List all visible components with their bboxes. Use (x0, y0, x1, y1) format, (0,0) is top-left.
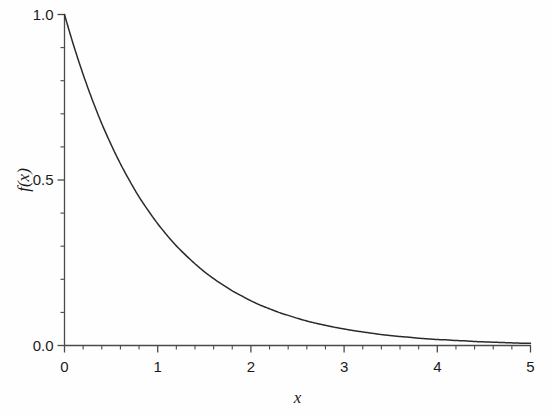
x-tick-label-2: 2 (231, 358, 271, 375)
y-tick-label-0-5: 0.5 (33, 171, 54, 188)
y-axis-major-ticks (58, 15, 65, 346)
y-tick-label-1-0: 1.0 (33, 6, 54, 23)
x-tick-label-3: 3 (324, 358, 364, 375)
y-axis-title: f(x) (14, 160, 34, 200)
x-tick-label-0: 0 (45, 358, 85, 375)
x-tick-label-5: 5 (511, 358, 551, 375)
x-tick-label-1: 1 (138, 358, 178, 375)
axis-lines (65, 15, 532, 346)
x-axis-title: x (258, 388, 338, 408)
data-series-exponential-decay (65, 15, 531, 344)
x-axis-major-ticks (65, 346, 531, 353)
x-tick-label-4: 4 (417, 358, 457, 375)
chart-figure: 1.0 0.5 0.0 0 1 2 3 4 5 x f(x) (0, 0, 551, 416)
plot-canvas (0, 0, 551, 416)
y-tick-label-0-0: 0.0 (33, 337, 54, 354)
